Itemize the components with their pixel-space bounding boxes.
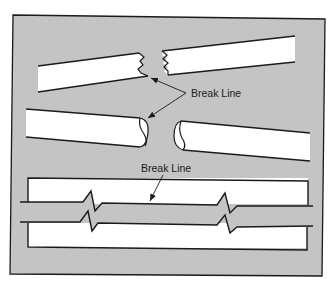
break-line-label-upper: Break Line [191,87,241,99]
break-line-diagram: Break Line Break Line [0,0,333,283]
break-line-label-lower: Break Line [141,162,191,174]
long-part-upper [28,178,308,205]
